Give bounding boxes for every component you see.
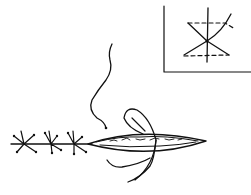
suture-knot-2 bbox=[44, 131, 62, 154]
inset-vertical-line bbox=[207, 8, 208, 62]
suture-diagram bbox=[0, 0, 251, 195]
suture-lower-strand bbox=[107, 158, 150, 167]
suture-knot-3 bbox=[67, 131, 87, 155]
suture-in-progress bbox=[107, 109, 156, 182]
loose-thread bbox=[91, 44, 112, 128]
wound-tissue-texture bbox=[110, 138, 182, 141]
open-wound bbox=[88, 134, 206, 151]
inset-dashed-top bbox=[188, 23, 235, 29]
inset-crossing-point bbox=[205, 39, 208, 42]
inset-dashed-bottom bbox=[184, 55, 229, 56]
diagram-svg bbox=[0, 0, 251, 195]
thread-end bbox=[105, 127, 108, 130]
inset-figure-eight bbox=[164, 6, 251, 72]
suture-knot-1 bbox=[13, 131, 37, 153]
suture-loop bbox=[124, 109, 156, 182]
closed-sutures bbox=[11, 131, 92, 155]
